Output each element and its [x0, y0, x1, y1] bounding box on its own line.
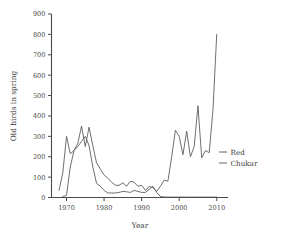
y-tick-label: 900 [33, 10, 46, 18]
y-tick-label: 400 [33, 112, 46, 120]
y-tick-label: 800 [33, 31, 46, 39]
y-tick-labels: 0100200300400500600700800900 [33, 10, 46, 202]
x-tick-labels: 19701980199020002010 [58, 204, 225, 212]
x-axis-title: Year [131, 221, 149, 230]
legend-label-red: Red [231, 148, 246, 157]
x-tick-label: 2010 [208, 204, 225, 212]
chart-figure: 0100200300400500600700800900 19701980199… [0, 0, 281, 238]
y-tick-label: 700 [33, 51, 46, 59]
y-tick-label: 0 [41, 194, 45, 202]
x-tick-label: 1980 [96, 204, 113, 212]
x-tick-label: 1990 [133, 204, 150, 212]
y-tick-label: 500 [33, 92, 46, 100]
y-tick-label: 600 [33, 72, 46, 80]
x-tick-label: 2000 [171, 204, 188, 212]
y-tick-label: 200 [33, 153, 46, 161]
x-tick-label: 1970 [58, 204, 75, 212]
legend-label-chukar: Chukar [231, 159, 258, 168]
y-tick-label: 100 [33, 174, 46, 182]
data-series-group [59, 34, 217, 197]
y-axis-title: Old birds in spring [9, 71, 18, 142]
chart-legend: RedChukar [219, 148, 258, 168]
series-line-red [59, 34, 217, 191]
line-chart: 0100200300400500600700800900 19701980199… [0, 0, 281, 238]
y-tick-label: 300 [33, 133, 46, 141]
